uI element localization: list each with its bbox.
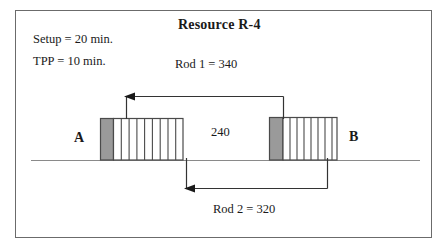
block-a-setup-bar xyxy=(101,119,114,161)
gap-duration-label: 240 xyxy=(211,126,230,139)
rod2-arrow xyxy=(186,158,328,189)
rod2-duration-label: Rod 2 = 320 xyxy=(213,203,275,216)
block-a-process-bar xyxy=(114,119,184,161)
point-a-label: A xyxy=(74,131,84,145)
rod1-duration-label: Rod 1 = 340 xyxy=(175,58,237,71)
rod1-arrow xyxy=(126,97,284,120)
page-title: Resource R-4 xyxy=(178,18,261,32)
rod1-arrowhead-icon xyxy=(124,93,135,101)
tpp-time-note: TPP = 10 min. xyxy=(33,55,106,68)
rod2-arrowhead-icon xyxy=(184,185,195,193)
block-b-group xyxy=(270,118,338,161)
setup-time-note: Setup = 20 min. xyxy=(33,33,113,46)
block-a-group xyxy=(101,119,184,161)
block-b-process-bar xyxy=(283,118,337,161)
block-b-setup-bar xyxy=(270,118,284,161)
point-b-label: B xyxy=(349,130,358,144)
